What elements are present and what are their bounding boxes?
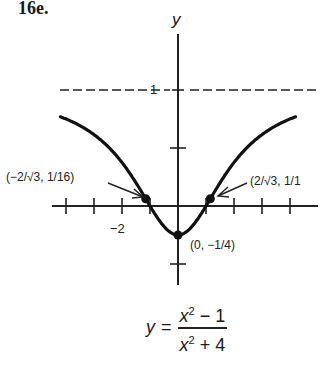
- function-formula: y = x2 − 1 x2 + 4: [146, 300, 227, 356]
- right-arrow: [218, 183, 247, 196]
- right-inflection-label: (2/√3, 1/1: [250, 174, 301, 188]
- formula-lhs: y: [146, 317, 155, 338]
- y-axis-label: y: [172, 10, 181, 30]
- formula-equals: =: [161, 317, 172, 338]
- minimum-label: (0, −1/4): [190, 238, 235, 252]
- left-inflection-label: (−2/√3, 1/16): [6, 170, 74, 184]
- asymptote-label: 1: [150, 82, 157, 97]
- function-plot: [0, 0, 324, 300]
- formula-fraction: x2 − 1 x2 + 4: [178, 300, 228, 356]
- formula-numerator: x2 − 1: [178, 300, 228, 327]
- formula-denominator: x2 + 4: [178, 329, 228, 356]
- x-tick-label-neg2: −2: [110, 221, 125, 236]
